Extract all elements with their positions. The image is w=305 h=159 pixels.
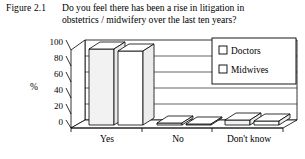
chart-canvas: 100 80 60 40 20 0 % xyxy=(0,28,305,159)
figure-caption-label: Figure 2.1 xyxy=(6,3,46,13)
y-axis-tick-labels: 100 80 60 40 20 0 xyxy=(50,37,64,127)
legend-label-doctors: Doctors xyxy=(231,46,261,56)
y-tick-20: 20 xyxy=(54,101,64,111)
bar-chart: 100 80 60 40 20 0 % xyxy=(0,28,305,159)
figure-title-line-1: Do you feel there has been a rise in lit… xyxy=(62,2,244,13)
legend-item-midwives[interactable]: Midwives xyxy=(219,65,269,75)
legend-swatch-midwives xyxy=(219,65,227,73)
y-tick-0: 0 xyxy=(59,117,64,127)
plot-left-wall xyxy=(71,40,85,128)
figure-container: Figure 2.1 Do you feel there has been a … xyxy=(0,0,305,159)
cat-label-no: No xyxy=(172,134,184,144)
y-tick-100: 100 xyxy=(50,37,64,47)
y-tick-60: 60 xyxy=(54,69,64,79)
y-tick-80: 80 xyxy=(54,53,64,63)
bar-yes-midwives[interactable] xyxy=(118,44,154,125)
y-axis-ticks xyxy=(66,40,71,128)
legend-item-doctors[interactable]: Doctors xyxy=(219,46,261,56)
legend-label-midwives: Midwives xyxy=(231,65,269,75)
legend-swatch-doctors xyxy=(219,46,227,54)
x-axis xyxy=(71,128,283,132)
cat-label-yes: Yes xyxy=(100,134,114,144)
chart-legend[interactable]: Doctors Midwives xyxy=(212,38,296,84)
y-axis-title: % xyxy=(30,82,38,92)
figure-title-line-2: obstetrics / midwifery over the last ten… xyxy=(62,14,300,26)
x-axis-category-labels: Yes No Don't know xyxy=(100,134,271,144)
y-tick-40: 40 xyxy=(54,85,64,95)
cat-label-dont-know: Don't know xyxy=(227,134,271,144)
figure-title: Do you feel there has been a rise in lit… xyxy=(62,2,300,27)
